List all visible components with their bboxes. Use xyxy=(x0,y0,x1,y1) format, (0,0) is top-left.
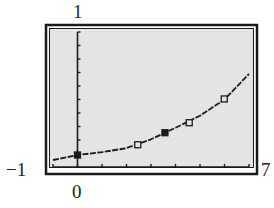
xmin-label: −1 xyxy=(6,160,26,179)
open-square-marker xyxy=(221,96,227,102)
xmax-label: 7 xyxy=(261,160,271,179)
calculator-graph xyxy=(0,0,274,208)
filled-square-marker xyxy=(162,130,168,136)
ymax-label: 1 xyxy=(73,2,83,21)
ymin-label: 0 xyxy=(72,182,82,201)
open-square-marker xyxy=(135,142,141,148)
filled-square-marker xyxy=(75,152,81,158)
open-square-marker xyxy=(186,120,192,126)
